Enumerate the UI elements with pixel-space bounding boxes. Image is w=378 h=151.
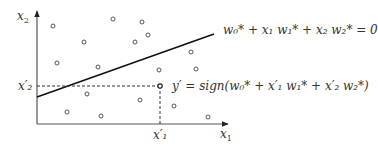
data-points bbox=[51, 17, 210, 119]
data-point bbox=[51, 24, 55, 28]
boundary-equation-label: w₀* + x₁ w₁* + x₂ w₂* = 0 bbox=[223, 24, 378, 36]
data-point bbox=[189, 50, 193, 54]
data-point bbox=[133, 40, 137, 44]
data-point bbox=[65, 110, 69, 114]
data-point bbox=[111, 17, 115, 21]
data-point bbox=[140, 20, 144, 24]
data-point bbox=[194, 67, 198, 71]
x-axis-label: x1 bbox=[220, 128, 232, 143]
data-point bbox=[172, 104, 176, 108]
query-point bbox=[158, 84, 162, 88]
query-x-tick-label: x′₁ bbox=[153, 129, 167, 141]
data-point bbox=[85, 92, 89, 96]
data-point bbox=[99, 114, 103, 118]
data-point bbox=[206, 115, 210, 119]
data-point bbox=[138, 98, 142, 102]
data-point bbox=[82, 40, 86, 44]
data-point bbox=[96, 65, 100, 69]
y-axis-label: x2 bbox=[17, 10, 29, 25]
data-point bbox=[157, 68, 161, 72]
data-point bbox=[55, 61, 59, 65]
data-point bbox=[146, 33, 150, 37]
prediction-label: y′ = sign(w₀* + x′₁ w₁* + x′₂ w₂*) bbox=[172, 80, 369, 92]
query-y-tick-label: x′₂ bbox=[18, 80, 32, 92]
